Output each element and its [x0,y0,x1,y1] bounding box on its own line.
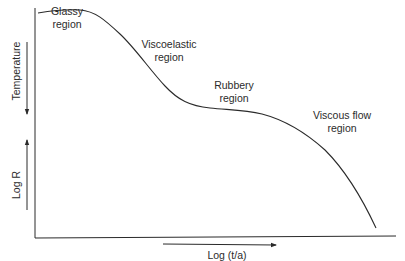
log-r-label: Log R [10,165,22,205]
glassy-region-label: Glassy region [42,5,92,30]
temperature-label: Temperature [10,41,22,101]
viscoelastic-line2: region [137,51,201,63]
x-axis-label: Log (t/a) [192,249,262,261]
glassy-line2: region [42,18,92,30]
viscous-line1: Viscous flow [307,109,377,121]
viscoelastic-region-label: Viscoelastic region [137,38,201,63]
viscous-line2: region [307,122,377,134]
viscous-flow-region-label: Viscous flow region [307,109,377,134]
viscoelastic-line1: Viscoelastic [137,38,201,50]
rubbery-region-label: Rubbery region [206,79,262,104]
rubbery-line2: region [206,92,262,104]
x-axis [35,236,396,238]
rubbery-line1: Rubbery [206,79,262,91]
glassy-line1: Glassy [42,5,92,17]
time-arrow [163,244,276,245]
